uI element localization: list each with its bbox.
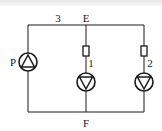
circuit-diagram [0, 0, 162, 131]
resistor-1-icon [83, 46, 89, 56]
label-node-e: E [83, 13, 90, 24]
label-branch-2: 2 [147, 58, 153, 69]
label-segment-3: 3 [55, 13, 61, 24]
label-branch-1: 1 [88, 58, 94, 69]
resistor-2-icon [141, 46, 147, 56]
label-pump-p: P [10, 57, 16, 68]
pump-p-icon [19, 53, 37, 71]
pump-1-icon [77, 73, 95, 91]
label-node-f: F [83, 118, 89, 129]
pump-2-icon [135, 73, 153, 91]
